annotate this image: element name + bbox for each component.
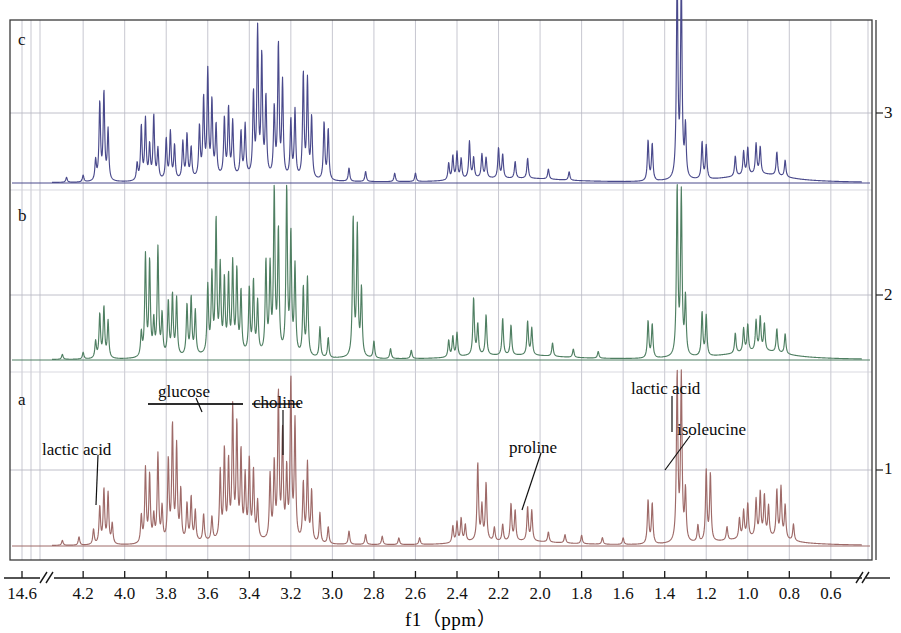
trace-label-b: b	[18, 206, 27, 226]
x-axis	[4, 571, 890, 583]
x-tick-label: 3.4	[232, 584, 266, 604]
trace-c	[12, 0, 870, 183]
nmr-spectra-plot	[0, 0, 901, 633]
plot-frame	[10, 20, 883, 560]
spectra-traces	[12, 0, 870, 546]
x-tick-label: 4.0	[108, 584, 142, 604]
annotation-leaders	[96, 396, 690, 510]
x-tick-label: 3.8	[149, 584, 183, 604]
annotation-label-choline: choline	[253, 393, 303, 413]
trace-label-a: a	[18, 390, 26, 410]
x-tick-label: 2.4	[440, 584, 474, 604]
x-tick-label: 2.0	[523, 584, 557, 604]
x-tick-label: 4.2	[66, 584, 100, 604]
x-tick-label: 0.8	[772, 584, 806, 604]
x-tick-label: 2.6	[398, 584, 432, 604]
x-tick-label: 1.0	[731, 584, 765, 604]
frame-rect	[10, 20, 872, 560]
trace-label-c: c	[18, 30, 26, 50]
grid-lines	[10, 20, 872, 560]
annotation-label-lactic-acid: lactic acid	[42, 440, 111, 460]
x-tick-label: 14.6	[5, 584, 39, 604]
axis-break-icon	[40, 572, 53, 583]
x-tick-label: 3.2	[274, 584, 308, 604]
x-axis-title: f1（ppm）	[0, 604, 901, 631]
annotation-label-proline: proline	[509, 438, 557, 458]
y-tick-3: 3	[884, 103, 893, 123]
y-tick-1: 1	[884, 459, 893, 479]
annotation-leader	[522, 453, 541, 510]
trace-a	[12, 370, 870, 546]
x-tick-label: 1.4	[648, 584, 682, 604]
annotation-label-isoleucine: isoleucine	[677, 420, 746, 440]
x-tick-label: 1.2	[689, 584, 723, 604]
x-tick-label: 1.8	[565, 584, 599, 604]
x-tick-label: 0.6	[814, 584, 848, 604]
annotation-leader	[96, 455, 98, 505]
trace-b	[12, 184, 870, 360]
figure-root: c b a 3 2 1 f1（ppm） 14.64.24.03.83.63.43…	[0, 0, 901, 633]
x-tick-label: 1.6	[606, 584, 640, 604]
x-tick-label: 3.0	[315, 584, 349, 604]
x-tick-label: 2.8	[357, 584, 391, 604]
y-tick-2: 2	[884, 285, 893, 305]
annotation-label-glucose: glucose	[158, 382, 210, 402]
x-tick-label: 2.2	[482, 584, 516, 604]
annotation-label-lactic-acid: lactic acid	[631, 379, 700, 399]
x-tick-label: 3.6	[191, 584, 225, 604]
